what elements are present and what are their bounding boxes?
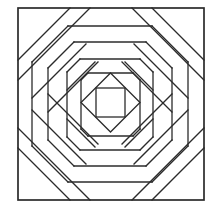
pineapple-quilt-diagram [0, 0, 214, 212]
diagram-svg [0, 0, 214, 212]
